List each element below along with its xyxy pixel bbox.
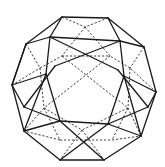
visible-edge [50, 37, 120, 41]
visible-edge [24, 131, 60, 160]
visible-edge [46, 74, 60, 121]
hidden-edge [60, 130, 82, 160]
hidden-edge [26, 44, 40, 68]
hidden-edge [128, 68, 130, 108]
visible-edge [62, 17, 108, 18]
visible-edge [124, 76, 141, 136]
visible-edge [60, 121, 108, 124]
visible-edge [50, 37, 118, 70]
visible-edge [108, 124, 141, 136]
visible-edges [12, 17, 156, 160]
visible-edge [120, 41, 124, 76]
visible-edge [108, 18, 120, 41]
hidden-edge [62, 56, 128, 108]
visible-edge [12, 74, 46, 85]
hidden-edge [62, 17, 85, 27]
polyhedron-wireframe-diagram [0, 0, 165, 167]
hidden-edge [85, 18, 108, 27]
hidden-edge [85, 27, 110, 56]
visible-edge [50, 17, 62, 37]
visible-edge [12, 85, 24, 131]
visible-edge [144, 47, 156, 92]
visible-edge [24, 121, 60, 131]
hidden-edge [130, 68, 156, 92]
hidden-edge [40, 56, 62, 68]
hidden-edge [112, 108, 128, 140]
hidden-edge [130, 47, 144, 68]
visible-edge [12, 44, 26, 85]
hidden-edge [110, 56, 130, 68]
visible-edge [118, 70, 148, 107]
hidden-edge [12, 68, 40, 85]
visible-edge [141, 92, 156, 136]
visible-edge [12, 85, 24, 107]
visible-edge [46, 37, 50, 74]
visible-edge [108, 107, 148, 124]
visible-edge [108, 76, 124, 124]
visible-edge [60, 121, 104, 160]
